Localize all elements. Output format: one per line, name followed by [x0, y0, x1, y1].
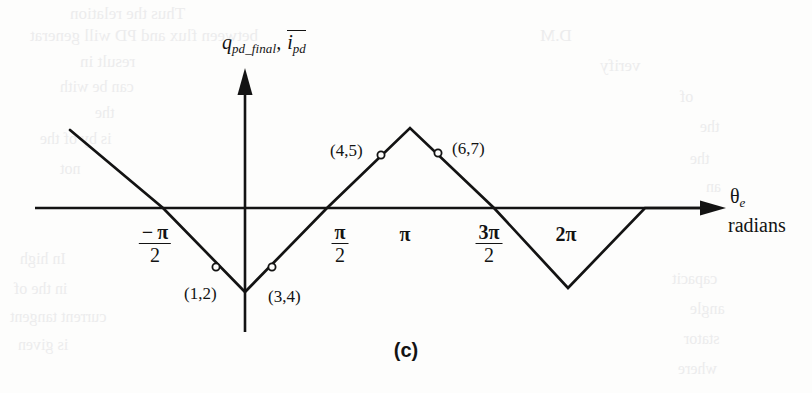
y-axis-var1-base: q	[222, 31, 232, 53]
sample-point-marker	[268, 263, 275, 270]
tick-label-pi: π	[400, 224, 411, 244]
figure-page: Thus the relationbetween flux and PD wil…	[0, 0, 812, 393]
sample-point-markers	[212, 149, 441, 270]
sample-point-marker	[212, 263, 219, 270]
x-axis-symbol-subscript: e	[740, 195, 746, 210]
fraction: 3π2	[476, 222, 503, 266]
fraction-denominator: 2	[332, 243, 349, 265]
tick-label-three-pi-over-2: 3π2	[476, 222, 503, 266]
tick-sign: −	[142, 221, 157, 243]
figure-caption: (c)	[0, 340, 812, 360]
tick-label-neg-pi-over-2: − π2	[139, 222, 171, 266]
fraction-numerator: π	[332, 222, 349, 243]
y-axis-var1-subscript: pd_final	[232, 41, 276, 56]
x-axis	[35, 201, 726, 216]
waveform-trace	[70, 128, 710, 292]
fraction: − π2	[139, 222, 171, 266]
fraction-numerator: − π	[139, 222, 171, 243]
fraction-denominator: 2	[139, 243, 171, 265]
y-axis-var2-overlined: ipd	[287, 30, 306, 55]
tick-label-two-pi: 2π	[556, 224, 577, 244]
fraction-numerator: 3π	[476, 222, 503, 243]
tick-label-pi-over-2: π2	[332, 222, 349, 266]
fraction-denominator: 2	[476, 243, 503, 265]
x-axis-units: radians	[728, 215, 786, 235]
fraction: π2	[332, 222, 349, 266]
sample-point-marker	[434, 149, 441, 156]
x-axis-symbol: θ	[730, 185, 740, 207]
sample-point-label: (1,2)	[184, 285, 217, 302]
waveform-plot	[0, 0, 812, 393]
y-axis-label: qpd_final, ipd	[222, 30, 306, 55]
x-axis-label: θe	[730, 186, 745, 209]
sample-point-marker	[377, 151, 384, 158]
y-axis-separator: ,	[276, 31, 286, 53]
sample-point-label: (6,7)	[452, 140, 485, 157]
sample-point-label: (4,5)	[330, 142, 363, 159]
sample-point-label: (3,4)	[268, 288, 301, 305]
y-axis-var2-subscript: pd	[293, 41, 306, 56]
